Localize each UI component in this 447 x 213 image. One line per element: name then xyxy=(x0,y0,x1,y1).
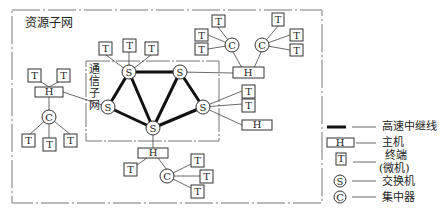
svg-text:S: S xyxy=(150,123,157,134)
legend-label-terminal: 终端 xyxy=(385,150,407,161)
svg-text:S: S xyxy=(200,102,207,113)
host-node: H xyxy=(242,119,272,130)
resource-subnet-label: 资源子网 xyxy=(25,17,73,29)
host-node: H xyxy=(233,67,264,78)
svg-text:H: H xyxy=(336,137,345,148)
svg-text:S: S xyxy=(126,67,133,78)
svg-text:T: T xyxy=(198,44,205,55)
svg-text:T: T xyxy=(67,135,74,146)
terminal-node: T xyxy=(290,29,303,41)
switch-node: S xyxy=(122,65,136,79)
svg-text:S: S xyxy=(105,102,112,113)
svg-text:S: S xyxy=(337,176,344,187)
terminal-node: T xyxy=(191,185,204,198)
terminal-node: T xyxy=(43,138,56,151)
terminal-node: T xyxy=(195,43,208,55)
svg-text:S: S xyxy=(177,67,184,78)
legend-symbols: H T S C xyxy=(327,127,376,203)
svg-text:T: T xyxy=(126,40,133,51)
communication-subnet-label: 通 信 子 网 xyxy=(89,64,101,112)
concentrator-node: C xyxy=(160,169,174,183)
svg-text:C: C xyxy=(163,171,171,182)
terminal-node: T xyxy=(242,85,255,98)
terminal-node: T xyxy=(242,99,255,112)
terminal-node: T xyxy=(272,13,284,26)
terminal-node: T xyxy=(57,69,70,82)
svg-text:T: T xyxy=(194,186,201,197)
terminal-node: T xyxy=(123,39,136,52)
comm-label-char: 网 xyxy=(89,100,101,112)
svg-text:H: H xyxy=(253,119,262,130)
svg-text:T: T xyxy=(203,171,210,182)
svg-text:T: T xyxy=(293,30,300,41)
concentrators: C C C C xyxy=(42,38,269,183)
svg-text:H: H xyxy=(45,86,54,97)
legend-label-terminal-sub: (微机) xyxy=(379,163,410,174)
svg-text:T: T xyxy=(338,153,345,164)
switches: S S S S S xyxy=(101,65,210,135)
svg-text:T: T xyxy=(60,70,67,81)
concentrator-node: C xyxy=(255,38,269,52)
legend-label-switch: 交换机 xyxy=(382,176,415,187)
switch-node: S xyxy=(173,65,187,79)
terminal-node: T xyxy=(99,42,112,55)
svg-text:H: H xyxy=(149,147,158,158)
svg-text:T: T xyxy=(245,86,252,97)
terminal-node: T xyxy=(191,154,204,167)
terminal-node: T xyxy=(212,15,225,27)
legend-label-trunk: 高速中继线 xyxy=(382,121,437,132)
svg-text:C: C xyxy=(336,192,344,203)
terminal-node: T xyxy=(200,170,213,183)
svg-text:C: C xyxy=(258,40,266,51)
host-node: H xyxy=(138,147,168,158)
legend-label-host: 主机 xyxy=(382,137,404,148)
svg-text:T: T xyxy=(31,70,38,81)
svg-text:T: T xyxy=(102,43,109,54)
terminal-node: T xyxy=(22,134,35,147)
high-speed-trunk-lines xyxy=(108,72,203,128)
switch-node: S xyxy=(146,121,160,135)
svg-text:H: H xyxy=(244,67,253,78)
terminal-node: T xyxy=(290,44,303,56)
svg-text:T: T xyxy=(148,43,155,54)
svg-text:T: T xyxy=(25,135,32,146)
terminal-node: T xyxy=(28,69,41,82)
switch-node: S xyxy=(101,100,115,114)
svg-text:T: T xyxy=(194,155,201,166)
svg-text:C: C xyxy=(45,112,53,123)
terminal-node: T xyxy=(64,134,77,147)
terminal-node: T xyxy=(145,42,158,55)
svg-text:T: T xyxy=(275,14,282,25)
concentrator-node: C xyxy=(225,38,239,52)
switch-node: S xyxy=(196,100,210,114)
concentrator-node: C xyxy=(42,110,56,124)
host-node: H xyxy=(35,86,63,97)
svg-text:C: C xyxy=(228,40,236,51)
svg-text:T: T xyxy=(198,30,205,41)
terminal-node: T xyxy=(195,29,208,41)
svg-text:T: T xyxy=(46,139,53,150)
svg-text:T: T xyxy=(293,45,300,56)
svg-text:T: T xyxy=(245,100,252,111)
terminal-node: T xyxy=(124,163,137,176)
network-diagram: S S S S S C C C C H H H H T T T T T T T … xyxy=(0,0,447,213)
svg-text:T: T xyxy=(127,164,134,175)
legend-label-concentrator: 集中器 xyxy=(382,192,415,203)
svg-text:T: T xyxy=(215,16,222,27)
